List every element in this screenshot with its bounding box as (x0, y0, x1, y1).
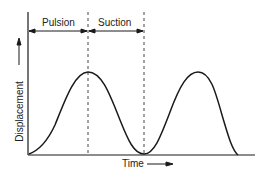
displacement-diagram (0, 0, 265, 173)
suction-arrow (89, 29, 143, 33)
phase-label-suction: Suction (98, 17, 131, 28)
pulsion-arrow (29, 29, 87, 33)
xlabel-arrow (147, 162, 173, 166)
y-axis-label: Displacement (14, 76, 25, 148)
x-axis-label: Time (122, 158, 144, 169)
phase-label-pulsion: Pulsion (42, 17, 75, 28)
ylabel-arrow (17, 38, 21, 65)
displacement-curve (29, 72, 238, 155)
